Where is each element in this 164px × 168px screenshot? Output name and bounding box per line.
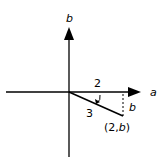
vertical-axis-arrow-icon [64,27,74,40]
point-label: (2,b) [104,121,130,134]
coordinate-diagram: b a 2 3 b (2,b) [0,0,164,168]
opposite-label: b [129,101,136,114]
vertical-axis-label: b [66,12,73,25]
hypotenuse-label: 3 [86,107,93,120]
horizontal-axis-label: a [150,86,157,99]
adjacent-label: 2 [94,77,101,90]
horizontal-axis-arrow-icon [128,87,141,97]
